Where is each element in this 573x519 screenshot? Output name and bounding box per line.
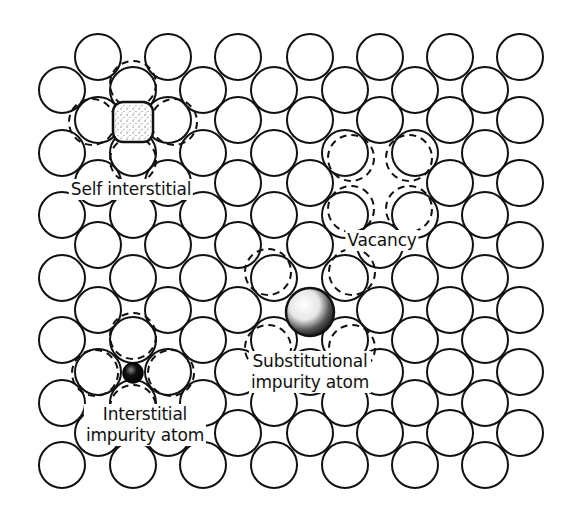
substitutional-label: Substitutional impurity atom [249, 351, 371, 393]
interstitial-impurity-text-line2: impurity atom [86, 425, 204, 446]
self-interstitial-label: Self interstitial [69, 179, 193, 200]
substitutional-text-line1: Substitutional [251, 351, 369, 372]
substitutional-impurity-atom [286, 288, 334, 336]
substitutional-text-line2: impurity atom [251, 372, 369, 393]
interstitial-impurity-text-line1: Interstitial [86, 404, 204, 425]
self-interstitial-text: Self interstitial [71, 179, 191, 199]
vacancy-label: Vacancy [345, 230, 418, 251]
interstitial-impurity-label: Interstitial impurity atom [84, 404, 206, 446]
self-interstitial-atom [113, 102, 153, 142]
vacancy-text: Vacancy [347, 230, 416, 250]
interstitial-impurity-atom [123, 363, 143, 383]
